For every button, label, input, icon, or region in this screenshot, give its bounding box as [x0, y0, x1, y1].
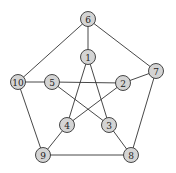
node-label: 9 [40, 151, 46, 161]
edge-6-10 [18, 19, 88, 82]
edges-group [18, 19, 156, 155]
node-9: 9 [36, 148, 51, 163]
node-6: 6 [81, 12, 96, 27]
node-label: 3 [106, 121, 112, 131]
edge-1-3 [88, 57, 109, 125]
node-5: 5 [45, 75, 60, 90]
node-label: 8 [128, 151, 134, 161]
node-2: 2 [116, 76, 131, 91]
node-label: 5 [49, 78, 55, 88]
edge-6-7 [88, 19, 156, 71]
node-8: 8 [124, 148, 139, 163]
edge-3-5 [52, 82, 109, 125]
node-7: 7 [149, 64, 164, 79]
edge-7-8 [131, 71, 156, 155]
node-label: 4 [64, 121, 70, 131]
node-10: 10 [11, 75, 26, 90]
node-label: 10 [12, 78, 24, 88]
edge-2-4 [67, 83, 123, 125]
node-label: 7 [153, 67, 159, 77]
node-4: 4 [60, 118, 75, 133]
node-label: 6 [85, 15, 91, 25]
node-1: 1 [81, 50, 96, 65]
petersen-graph-diagram: 12345678910 [0, 0, 176, 173]
edge-2-5 [52, 82, 123, 83]
node-label: 2 [120, 79, 126, 89]
edge-1-4 [67, 57, 88, 125]
node-3: 3 [102, 118, 117, 133]
nodes-group: 12345678910 [11, 12, 164, 163]
node-label: 1 [85, 53, 91, 63]
edge-9-10 [18, 82, 43, 155]
